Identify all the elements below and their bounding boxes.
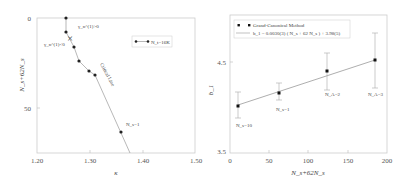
- left-plot: 1.20 1.30 1.40 1.50 0 50 κ N_s+62N_s × γ…: [18, 15, 203, 177]
- right-ylabel: b_1: [207, 85, 215, 96]
- legend-gc-method: Grand-Canonical Method: [253, 23, 305, 28]
- left-xtick-2: 1.40: [137, 157, 150, 165]
- critical-line-label: Critical Line: [99, 62, 116, 87]
- right-xtick-2: 100: [303, 157, 314, 165]
- annotation-positive: γ_n^(1)>0: [78, 24, 99, 29]
- error-bars: [235, 33, 378, 118]
- point-label-2: N_A=2: [325, 92, 341, 97]
- right-legend: Grand-Canonical Method b_1 = 0.0030(3) (…: [234, 20, 350, 38]
- left-legend: N_t=16K: [132, 36, 172, 47]
- point-label-3: N_A=3: [368, 92, 384, 97]
- figure: 1.20 1.30 1.40 1.50 0 50 κ N_s+62N_s × γ…: [0, 0, 405, 180]
- point-label-1: N_s=1: [276, 107, 290, 112]
- left-ytick-0: 0: [28, 15, 32, 23]
- left-xtick-3: 1.50: [190, 157, 203, 165]
- legend-fit: b_1 = 0.0030(3) ( N_s + 62 N_s ) + 3.98(…: [253, 31, 340, 36]
- critical-line: [95, 75, 130, 153]
- right-ytick-0: 3.5: [217, 148, 226, 156]
- right-xtick-1: 50: [266, 157, 274, 165]
- cross-marker: ×: [67, 33, 73, 44]
- right-plot: 0 50 100 150 200 3.5 4.5 N_s+62N_s b_1 N…: [207, 15, 393, 177]
- right-xtick-4: 200: [382, 157, 393, 165]
- right-xlabel: N_s+62N_s: [290, 169, 325, 177]
- left-ytick-1: 50: [24, 105, 32, 113]
- left-xtick-0: 1.20: [31, 157, 44, 165]
- left-xtick-1: 1.30: [84, 157, 97, 165]
- annotation-negative: γ_n^(1)<0: [44, 42, 65, 47]
- data-points: [237, 59, 377, 108]
- right-ytick-1: 4.5: [217, 59, 226, 67]
- left-legend-label: N_t=16K: [151, 40, 170, 45]
- right-xtick-0: 0: [228, 157, 232, 165]
- point-label-0: N_s=10: [236, 123, 252, 128]
- left-xlabel: κ: [114, 169, 118, 177]
- annotation-ns1: N_s=1: [126, 122, 140, 127]
- right-xtick-3: 150: [343, 157, 354, 165]
- left-ylabel: N_s+62N_s: [18, 58, 26, 93]
- fit-line: [238, 60, 375, 105]
- series-points: [64, 16, 122, 133]
